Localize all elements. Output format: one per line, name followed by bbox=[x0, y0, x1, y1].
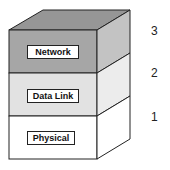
layer-1-number: 1 bbox=[151, 110, 158, 124]
layer-2-number: 2 bbox=[151, 66, 158, 80]
layer-2-label: Data Link bbox=[27, 89, 79, 103]
layer-3-label: Network bbox=[27, 45, 79, 59]
layer-1-label: Physical bbox=[27, 131, 75, 145]
layer-stack-cube bbox=[0, 0, 170, 170]
layer-3-number: 3 bbox=[151, 24, 158, 38]
